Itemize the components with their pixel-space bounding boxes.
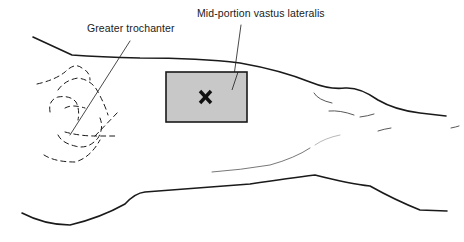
vastus-lateralis-label: Mid-portion vastus lateralis (197, 7, 325, 19)
thigh-inner-contour (212, 148, 310, 172)
thigh-inner-contour-2 (315, 135, 340, 145)
thigh-lower-outline (22, 175, 447, 225)
thigh-diagram (0, 0, 464, 242)
greater-trochanter-label: Greater trochanter (87, 22, 175, 34)
greater-trochanter-dashed-outline (37, 66, 118, 162)
knee-sketch-marks (314, 93, 459, 131)
